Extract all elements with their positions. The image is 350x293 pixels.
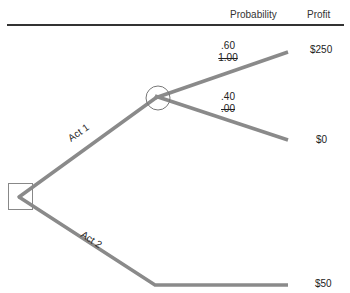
profit-250: $250: [310, 44, 332, 55]
profit-0: $0: [316, 134, 327, 145]
probability-0: .40: [213, 91, 243, 102]
decision-tree: [0, 0, 350, 293]
probability-250: .60: [213, 40, 243, 51]
act-1-branch: [19, 97, 157, 197]
profit-50: $50: [315, 278, 332, 289]
prior-probability-250: 1.00: [213, 52, 243, 63]
prior-probability-0: .00: [213, 103, 243, 114]
act-2-branch: [19, 197, 288, 285]
